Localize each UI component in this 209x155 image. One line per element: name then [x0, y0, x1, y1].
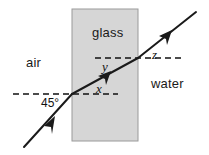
angle-label-incidence: 45° [41, 96, 59, 110]
medium-label-air: air [26, 55, 41, 70]
ray-arrowhead-water [159, 30, 172, 45]
medium-label-glass: glass [92, 25, 123, 40]
angle-label-y: y [102, 59, 108, 75]
medium-label-water: water [151, 76, 184, 91]
refraction-diagram: air glass water x y z 45° [0, 0, 209, 155]
angle-label-x: x [96, 81, 102, 97]
angle-label-z: z [152, 47, 157, 63]
